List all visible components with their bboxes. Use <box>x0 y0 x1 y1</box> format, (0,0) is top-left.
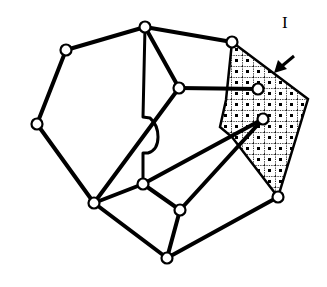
node <box>61 45 72 56</box>
node <box>253 84 264 95</box>
edge <box>37 124 94 203</box>
node <box>175 205 186 216</box>
edge <box>66 27 145 50</box>
node <box>32 119 43 130</box>
node <box>89 198 100 209</box>
curved-edge <box>143 27 158 184</box>
edge <box>37 50 66 124</box>
node <box>138 179 149 190</box>
edge <box>143 184 180 210</box>
edge <box>94 203 167 258</box>
edge <box>179 88 258 89</box>
edge <box>145 27 179 88</box>
edge <box>180 119 263 210</box>
node <box>273 192 284 203</box>
edge <box>145 27 232 42</box>
node <box>227 37 238 48</box>
node <box>162 253 173 264</box>
node <box>140 22 151 33</box>
graph-diagram: I <box>0 0 327 287</box>
node <box>174 83 185 94</box>
node <box>258 114 269 125</box>
arrow-shaft-icon <box>282 56 294 66</box>
region-label-group: I <box>274 13 294 73</box>
region-label: I <box>282 13 288 32</box>
